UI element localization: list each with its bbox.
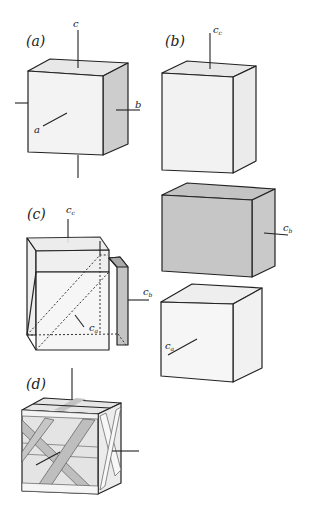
cb-axis-label: cb xyxy=(283,222,293,234)
cube-cb-front-face xyxy=(162,195,252,277)
panel-b-label: (b) xyxy=(165,33,185,49)
cube-ca-front-face xyxy=(161,302,233,382)
crystal-axes-figure: (a) c b a (b) cc cb ca xyxy=(0,0,312,513)
panel-c: (c) cc ca cb xyxy=(27,204,153,350)
cube-cb-side-face xyxy=(252,189,275,277)
cube-ca-side-face xyxy=(233,288,262,382)
cube-a-front-face xyxy=(28,71,103,155)
slab-cb-top xyxy=(109,257,128,267)
cb-axis-label-c: cb xyxy=(143,286,153,298)
panel-a: (a) c b a xyxy=(15,18,141,178)
panel-c-label: (c) xyxy=(27,206,46,222)
c-axis-label: c xyxy=(73,18,79,29)
cube-bc-side-face xyxy=(233,66,256,173)
slab-cb xyxy=(109,257,128,345)
edge-bottom-left xyxy=(27,335,36,350)
a-axis-label: a xyxy=(34,124,40,135)
panel-d-label: (d) xyxy=(26,376,46,392)
box-cc-left xyxy=(27,238,36,335)
cube-a-side-face xyxy=(103,63,128,155)
panel-d: (d) xyxy=(22,368,139,494)
box-cc-top xyxy=(27,237,109,251)
cube-bc-front-face xyxy=(162,73,233,173)
cc-axis-label-c: cc xyxy=(66,204,76,216)
cc-axis-label: cc xyxy=(213,24,223,36)
box-cc-front-upper xyxy=(36,250,109,272)
panel-a-label: (a) xyxy=(26,33,45,49)
panel-b: (b) cc cb ca xyxy=(161,24,293,382)
b-axis-label: b xyxy=(135,99,141,110)
